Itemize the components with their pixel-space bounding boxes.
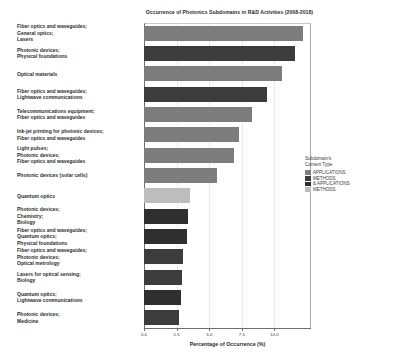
x-tick-label: 5.0 [206, 332, 212, 337]
bar [144, 127, 239, 142]
legend-swatch [305, 182, 311, 187]
category-label: Light pulses; Photonic devices; Fiber op… [17, 145, 137, 165]
bar [144, 107, 252, 122]
category-label: Ink-jet printing for photonic devices; F… [17, 128, 137, 141]
x-tick-mark [177, 328, 178, 331]
chart-title: Occurrence of Photonics Subdomains in R&… [137, 9, 322, 16]
category-label: Photonic devices; Medicine [17, 311, 137, 324]
x-tick-label: 0.0 [141, 332, 147, 337]
bar [144, 168, 217, 183]
x-axis-line [144, 328, 311, 329]
bar [144, 66, 282, 81]
bar [144, 46, 295, 61]
legend-label: METHODS [313, 187, 336, 193]
legend-title: Subdomain's Content Type [305, 156, 395, 168]
bar [144, 148, 234, 163]
bar [144, 26, 303, 41]
bar [144, 229, 187, 244]
bar [144, 188, 190, 203]
x-tick-mark [274, 328, 275, 331]
category-label: Fiber optics and waveguides; Photonic de… [17, 247, 137, 267]
x-tick-mark [144, 328, 145, 331]
bar [144, 249, 183, 264]
x-tick-mark [209, 328, 210, 331]
category-label: Photonic devices; Physical foundations [17, 47, 137, 60]
bar [144, 209, 188, 224]
category-label: Quantum optics [17, 193, 137, 200]
x-axis-title: Percentage of Occurrence (%) [144, 341, 311, 347]
bar [144, 87, 267, 102]
bar [144, 290, 181, 305]
category-label: Fiber optics and waveguides; Lightwave c… [17, 88, 137, 101]
legend-swatch [305, 170, 311, 175]
category-label: Fiber optics and waveguides; General opt… [17, 23, 137, 43]
x-tick-label: 2.5 [174, 332, 180, 337]
x-tick-label: 10.0 [270, 332, 279, 337]
legend-swatch [305, 176, 311, 181]
category-label: Photonic devices; Chemistry; Biology [17, 206, 137, 226]
category-label: Quantum optics; Lightwave communications [17, 291, 137, 304]
bar [144, 310, 179, 325]
x-tick-mark [242, 328, 243, 331]
category-label: Optical materials [17, 71, 137, 78]
bar [144, 270, 182, 285]
legend-swatch [305, 187, 311, 192]
bar-chart: Occurrence of Photonics Subdomains in R&… [0, 0, 397, 357]
legend-entries: APPLICATIONSMETHODS& APPLICATIONSMETHODS [305, 170, 395, 192]
category-label: Telecommunications equipment; Fiber opti… [17, 108, 137, 121]
x-tick-label: 7.5 [239, 332, 245, 337]
category-label: Fiber optics and waveguides; Quantum opt… [17, 227, 137, 247]
legend-entry: METHODS [305, 187, 395, 193]
category-label: Photonic devices (solar cells) [17, 172, 137, 179]
legend: Subdomain's Content Type APPLICATIONSMET… [305, 156, 395, 192]
category-label: Lasers for optical sensing; Biology [17, 271, 137, 284]
